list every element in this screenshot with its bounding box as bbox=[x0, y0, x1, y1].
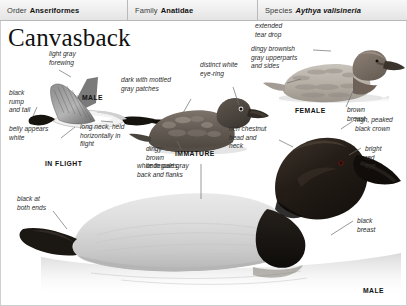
label-rump-and-tail: black rump and tail bbox=[9, 89, 30, 115]
taxonomy-header: Order Anseriformes Family Anatidae Speci… bbox=[0, 0, 407, 21]
taxonomy-species-label: Species bbox=[265, 6, 292, 15]
label-extended-tear-drop: extended tear drop bbox=[255, 22, 282, 39]
taxonomy-family-cell: Family Anatidae bbox=[128, 0, 258, 20]
caption-in-flight-male: MALE bbox=[82, 94, 103, 101]
illustration-plate: Canvasback bbox=[0, 21, 407, 306]
field-guide-page: Order Anseriformes Family Anatidae Speci… bbox=[0, 0, 407, 306]
taxonomy-species-value: Aythya valisineria bbox=[295, 6, 361, 15]
label-black-breast: black breast bbox=[357, 217, 375, 234]
taxonomy-species-cell: Species Aythya valisineria bbox=[258, 0, 407, 20]
taxonomy-order-cell: Order Anseriformes bbox=[0, 0, 128, 20]
taxonomy-order-value: Anseriformes bbox=[30, 6, 80, 15]
label-long-neck: long neck, held horizontally in flight bbox=[80, 123, 124, 149]
label-back-and-flanks: white to pale gray back and flanks bbox=[137, 162, 189, 179]
label-belly-white: belly appears white bbox=[9, 125, 48, 142]
taxonomy-family-label: Family bbox=[135, 6, 158, 15]
taxonomy-order-label: Order bbox=[7, 6, 27, 15]
label-peaked-black-crown: high, peaked black crown bbox=[355, 116, 393, 133]
label-bright-red-eye: bright red eye bbox=[365, 145, 382, 171]
taxonomy-family-value: Anatidae bbox=[161, 6, 193, 15]
label-dingy-brownish-upperparts: dingy brownish gray upperparts and sides bbox=[251, 45, 297, 71]
label-forewing: light gray forewing bbox=[49, 50, 76, 67]
label-rich-chestnut-head: rich chestnut head and neck bbox=[229, 125, 266, 151]
label-mottled-gray-patches: dark with mottled gray patches bbox=[121, 76, 171, 93]
caption-immature: IMMATURE bbox=[175, 150, 215, 157]
caption-male-swimming: MALE bbox=[363, 287, 384, 294]
caption-female: FEMALE bbox=[295, 107, 326, 114]
caption-in-flight: IN FLIGHT bbox=[45, 160, 82, 167]
label-black-both-ends: black at both ends bbox=[17, 195, 46, 212]
label-white-eye-ring: distinct white eye-ring bbox=[200, 61, 238, 78]
